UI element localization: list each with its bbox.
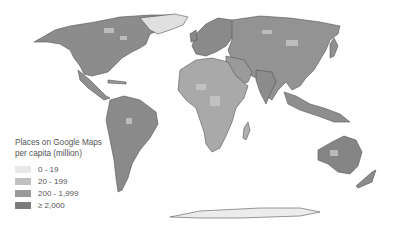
legend-item: 200 - 1,999 <box>15 187 145 199</box>
legend-label: 200 - 1,999 <box>38 189 78 198</box>
legend-label: ≥ 2,000 <box>38 201 65 210</box>
caribbean <box>108 80 126 84</box>
legend-items: 0 - 19 20 - 199 200 - 1,999 ≥ 2,000 <box>15 163 145 211</box>
antarctica <box>170 208 320 218</box>
australia <box>318 136 362 174</box>
southeast-asia <box>284 92 350 122</box>
united-kingdom <box>190 30 197 42</box>
legend-swatch <box>15 166 31 173</box>
legend-swatch <box>15 178 31 185</box>
legend-item: 20 - 199 <box>15 175 145 187</box>
legend-title-line1: Places on Google Maps <box>15 138 145 149</box>
legend-label: 0 - 19 <box>38 165 58 174</box>
madagascar <box>243 122 250 140</box>
legend-item: 0 - 19 <box>15 163 145 175</box>
legend-label: 20 - 199 <box>38 177 67 186</box>
new-zealand <box>356 170 376 188</box>
legend-swatch <box>15 202 31 209</box>
japan <box>330 38 338 58</box>
map-legend: Places on Google Maps per capita (millio… <box>15 138 145 211</box>
legend-swatch <box>15 190 31 197</box>
legend-title-line2: per capita (million) <box>15 149 145 160</box>
legend-title: Places on Google Maps per capita (millio… <box>15 138 145 159</box>
legend-item: ≥ 2,000 <box>15 199 145 211</box>
